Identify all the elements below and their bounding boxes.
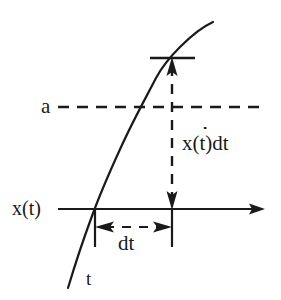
rise-label-text: x(t)dt [182,131,229,155]
axis-xt-label: x(t) [12,198,41,218]
figure-canvas [0,0,281,300]
time-t-label: t [86,269,91,288]
level-a-label: a [41,96,50,117]
derivative-increment-figure: a x(t) t dt x(t)dt [0,0,281,300]
rise-xdot-dt-label: x(t)dt [182,133,229,154]
overdot-icon [204,127,207,130]
dt-right-arrowhead-icon [153,222,172,233]
increment-dt-label: dt [118,233,134,254]
solution-curve [68,22,213,288]
overdot-x-glyph: x(t)dt [182,133,229,154]
